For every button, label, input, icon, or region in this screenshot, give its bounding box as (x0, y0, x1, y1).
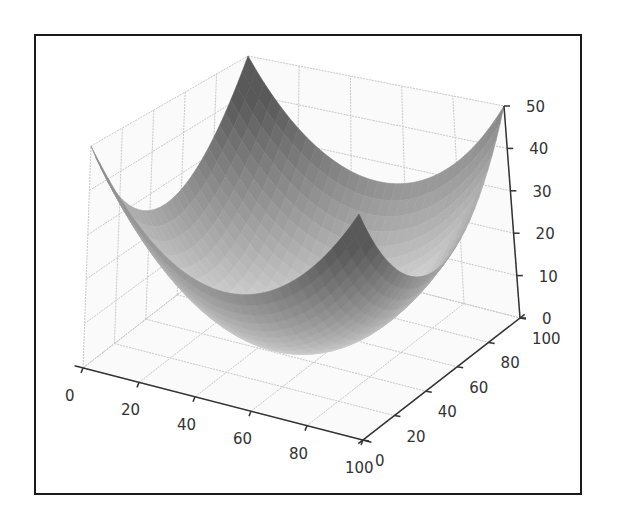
x-tick-label: 80 (289, 445, 308, 463)
x-tick-label: 100 (345, 459, 374, 477)
y-tick-label: 40 (438, 403, 457, 421)
x-tick-label: 40 (177, 416, 196, 434)
x-tick-label: 20 (121, 401, 140, 419)
z-tick-label: 0 (542, 310, 552, 328)
y-tick-label: 80 (501, 354, 520, 372)
z-tick-label: 20 (536, 225, 555, 243)
z-tick-label: 40 (529, 140, 548, 158)
x-tick-label: 0 (65, 387, 75, 405)
y-tick-label: 0 (375, 452, 385, 470)
y-tick-label: 100 (532, 330, 561, 348)
y-tick-label: 60 (469, 379, 488, 397)
surface-plot-3d: 020406080100 020406080100 01020304050 (0, 0, 617, 526)
z-tick-label: 10 (539, 268, 558, 286)
y-tick-label: 20 (406, 428, 425, 446)
x-tick-label: 60 (233, 430, 252, 448)
z-tick-label: 50 (526, 98, 545, 116)
z-tick-label: 30 (532, 183, 551, 201)
